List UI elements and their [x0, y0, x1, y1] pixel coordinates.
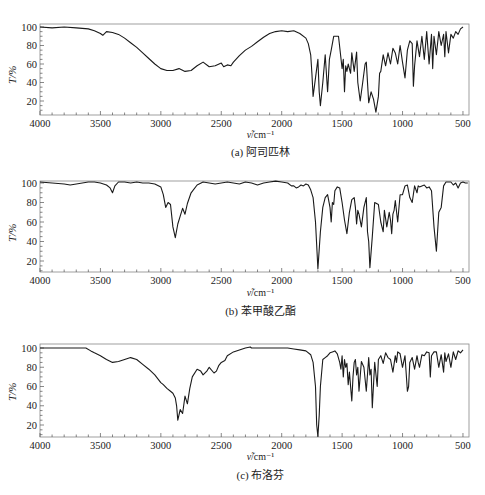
y-tick-label: 20	[27, 420, 38, 431]
x-tick-label: 500	[455, 118, 471, 129]
caption-c: (c) 布洛芬	[18, 466, 485, 482]
x-tick-label: 2500	[211, 118, 232, 129]
caption-a: (a) 阿司匹林	[18, 143, 485, 159]
y-axis-label-b: T/%	[6, 224, 18, 242]
x-tick-label: 1500	[332, 275, 353, 286]
y-tick-label: 60	[27, 381, 38, 392]
plot-frame	[40, 24, 469, 115]
y-tick-label: 40	[27, 236, 38, 247]
x-axis-label-b: ν̃/cm⁻¹	[18, 287, 485, 298]
y-tick-label: 100	[21, 22, 37, 33]
x-tick-label: 4000	[30, 440, 51, 451]
x-tick-label: 3500	[90, 275, 111, 286]
x-tick-label: 1500	[332, 118, 353, 129]
plot-frame	[40, 181, 469, 272]
y-tick-label: 40	[27, 400, 38, 411]
x-tick-label: 500	[455, 275, 471, 286]
x-tick-label: 2000	[271, 440, 292, 451]
x-tick-label: 3500	[90, 118, 111, 129]
x-tick-label: 1500	[332, 440, 353, 451]
y-tick-label: 100	[21, 178, 37, 189]
panel-c: 4000350030002500200015001000500100806040…	[0, 325, 485, 495]
y-tick-label: 80	[27, 362, 38, 373]
y-axis-label-c: T/%	[6, 383, 18, 401]
y-axis-label-a: T/%	[6, 66, 18, 84]
x-axis-unit: /cm⁻¹	[251, 287, 274, 298]
x-tick-label: 3000	[150, 275, 171, 286]
y-tick-label: 100	[21, 343, 37, 354]
y-tick-label: 20	[27, 256, 38, 267]
spectrum-plot-b: 4000350030002500200015001000500100806040…	[0, 160, 485, 325]
y-tick-label: 20	[27, 96, 38, 107]
x-tick-label: 1000	[392, 275, 413, 286]
ir-spectrum-line	[40, 181, 468, 269]
x-tick-label: 2500	[211, 440, 232, 451]
x-tick-label: 500	[455, 440, 471, 451]
x-tick-label: 2000	[271, 275, 292, 286]
y-tick-label: 40	[27, 77, 38, 88]
x-tick-label: 1000	[392, 440, 413, 451]
x-tick-label: 1000	[392, 118, 413, 129]
x-axis-unit: /cm⁻¹	[251, 129, 274, 140]
x-tick-label: 2000	[271, 118, 292, 129]
x-tick-label: 3000	[150, 118, 171, 129]
panel-a: 4000350030002500200015001000500100806040…	[0, 0, 485, 160]
x-axis-label-a: ν̃/cm⁻¹	[18, 129, 485, 140]
x-axis-unit: /cm⁻¹	[251, 451, 274, 462]
y-tick-label: 80	[27, 40, 38, 51]
ir-spectrum-line	[40, 347, 463, 437]
panel-b: 4000350030002500200015001000500100806040…	[0, 160, 485, 325]
x-tick-label: 3000	[150, 440, 171, 451]
x-tick-label: 2500	[211, 275, 232, 286]
x-tick-label: 3500	[90, 440, 111, 451]
x-axis-label-c: ν̃/cm⁻¹	[18, 451, 485, 462]
ir-spectrum-line	[40, 27, 463, 112]
y-tick-label: 60	[27, 217, 38, 228]
y-tick-label: 60	[27, 59, 38, 70]
x-tick-label: 4000	[30, 275, 51, 286]
x-tick-label: 4000	[30, 118, 51, 129]
y-tick-label: 80	[27, 197, 38, 208]
caption-b: (b) 苯甲酸乙酯	[18, 302, 485, 318]
